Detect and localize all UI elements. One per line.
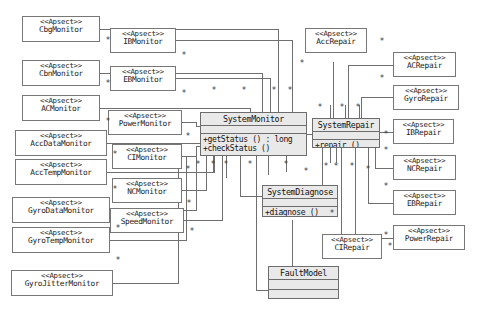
multiplicity-star: *: [384, 147, 388, 155]
aspect-box-cbgmonitor[interactable]: <<Apsect>> CbgMonitor: [22, 16, 100, 42]
operation-diagnose: +diagnose (): [265, 208, 337, 217]
class-operations-compartment: +getStatus () : long +checkStatus (): [201, 134, 306, 154]
aspect-box-accdatamonitor[interactable]: <<Apsect>> AccDataMonitor: [15, 130, 107, 156]
aspect-name: GyroJitterMonitor: [12, 280, 112, 288]
class-operations-compartment: +repair (): [313, 140, 379, 148]
aspect-box-gyrodatamonitor[interactable]: <<Apsect>> GyroDataMonitor: [12, 197, 110, 223]
class-box-faultmodel[interactable]: FaultModel: [268, 266, 339, 299]
aspect-box-ncmonitor[interactable]: <<Apsect>> NCMonitor: [112, 178, 182, 203]
class-attributes-compartment: [201, 126, 306, 134]
multiplicity-star: *: [384, 131, 388, 139]
aspect-box-acrepair[interactable]: <<Apsect>> ACRepair: [393, 52, 456, 77]
multiplicity-star: *: [106, 37, 110, 45]
aspect-name: CIMonitor: [113, 154, 181, 162]
aspect-box-ibmonitor[interactable]: <<Apsect>> IBMonitor: [110, 28, 176, 53]
multiplicity-star: *: [340, 104, 344, 112]
class-operations-compartment: +diagnose (): [263, 207, 337, 217]
aspect-name: EBRepair: [394, 200, 455, 208]
multiplicity-star: *: [272, 87, 276, 95]
class-name-systemmonitor: SystemMonitor: [201, 113, 306, 126]
aspect-name: CbgMonitor: [23, 26, 99, 34]
multiplicity-star: *: [388, 243, 392, 251]
class-attributes-compartment: [269, 280, 338, 290]
aspect-box-cbnmonitor[interactable]: <<Apsect>> CbnMonitor: [22, 60, 100, 86]
multiplicity-star: *: [324, 163, 328, 171]
aspect-box-speedmonitor[interactable]: <<Apsect>> SpeedMonitor: [110, 208, 184, 233]
aspect-name: PowerMonitor: [109, 120, 181, 128]
class-name-faultmodel: FaultModel: [269, 267, 338, 280]
multiplicity-star: *: [186, 166, 190, 174]
aspect-box-ibrepair[interactable]: <<Apsect>> IBRepair: [393, 119, 454, 144]
class-attributes-compartment: [263, 199, 337, 207]
aspect-name: AccDataMonitor: [16, 140, 106, 148]
multiplicity-star: *: [366, 166, 370, 174]
multiplicity-star: *: [106, 118, 110, 126]
multiplicity-star: *: [212, 87, 216, 95]
class-box-systemdiagnose[interactable]: SystemDiagnose +diagnose (): [262, 185, 338, 217]
aspect-name: SpeedMonitor: [111, 218, 183, 226]
multiplicity-star: *: [384, 232, 388, 240]
multiplicity-star: *: [116, 225, 120, 233]
multiplicity-star: *: [288, 87, 292, 95]
aspect-name: IBRepair: [394, 129, 453, 137]
multiplicity-star: *: [384, 183, 388, 191]
aspect-name: NCMonitor: [113, 188, 181, 196]
multiplicity-star: *: [196, 161, 200, 169]
aspect-name: ACRepair: [394, 62, 455, 70]
aspect-box-gyrojittermonitor[interactable]: <<Apsect>> GyroJitterMonitor: [11, 270, 113, 296]
class-name-systemdiagnose: SystemDiagnose: [263, 186, 337, 199]
multiplicity-star: *: [106, 80, 110, 88]
aspect-name: GyroTempMonitor: [13, 237, 109, 245]
aspect-box-powerrepair[interactable]: <<Apsect>> PowerRepair: [393, 225, 465, 250]
aspect-box-gyrotempmonitor[interactable]: <<Apsect>> GyroTempMonitor: [12, 227, 110, 253]
aspect-box-ebmonitor[interactable]: <<Apsect>> EBMonitor: [110, 66, 176, 91]
aspect-name: ACMonitor: [23, 105, 99, 113]
multiplicity-star: *: [334, 163, 338, 171]
multiplicity-star: *: [242, 87, 246, 95]
multiplicity-star: *: [182, 52, 186, 60]
operation-repair: +repair (): [315, 141, 379, 148]
aspect-name: GyroRepair: [394, 95, 458, 103]
class-operations-compartment: [269, 290, 338, 299]
aspect-box-cirepair[interactable]: <<Apsect>> CIRepair: [322, 234, 382, 259]
aspect-name: PowerRepair: [394, 235, 464, 243]
aspect-box-ebrepair[interactable]: <<Apsect>> EBRepair: [393, 190, 456, 215]
multiplicity-star: *: [300, 60, 304, 68]
aspect-name: IBMonitor: [111, 38, 175, 46]
multiplicity-star: *: [380, 75, 384, 83]
aspect-box-acctempmonitor[interactable]: <<Apsect>> AccTempMonitor: [15, 159, 107, 185]
class-box-systemmonitor[interactable]: SystemMonitor +getStatus () : long +chec…: [200, 112, 307, 156]
multiplicity-star: *: [190, 228, 194, 236]
multiplicity-star: *: [380, 38, 384, 46]
multiplicity-star: *: [350, 163, 354, 171]
aspect-name: CIRepair: [323, 244, 381, 252]
multiplicity-star: *: [186, 133, 190, 141]
multiplicity-star: *: [284, 161, 288, 169]
aspect-box-ncrepair[interactable]: <<Apsect>> NCRepair: [393, 155, 456, 180]
class-attributes-compartment: [313, 132, 379, 140]
aspect-box-acmonitor[interactable]: <<Apsect>> ACMonitor: [22, 95, 100, 121]
aspect-name: CbnMonitor: [23, 70, 99, 78]
multiplicity-star: *: [304, 168, 308, 176]
multiplicity-star: *: [187, 200, 191, 208]
operation-checkstatus: +checkStatus (): [203, 144, 306, 153]
multiplicity-star: *: [330, 210, 334, 218]
aspect-box-gyrorepair[interactable]: <<Apsect>> GyroRepair: [393, 85, 459, 110]
multiplicity-star: *: [113, 186, 117, 194]
aspect-box-cimonitor[interactable]: <<Apsect>> CIMonitor: [112, 144, 182, 169]
aspect-name: NCRepair: [394, 165, 455, 173]
multiplicity-star: *: [356, 104, 360, 112]
multiplicity-star: *: [116, 257, 120, 265]
uml-diagram-canvas: <<Apsect>> CbgMonitor <<Apsect>> CbnMoni…: [0, 0, 478, 320]
operation-getstatus: +getStatus () : long: [203, 135, 306, 144]
multiplicity-star: *: [318, 104, 322, 112]
aspect-box-accrepair[interactable]: <<Apsect>> AccRepair: [305, 28, 367, 53]
multiplicity-star: *: [182, 90, 186, 98]
multiplicity-star: *: [211, 161, 215, 169]
aspect-name: EBMonitor: [111, 76, 175, 84]
class-box-systemrepair[interactable]: SystemRepair +repair (): [312, 118, 380, 148]
aspect-box-powermonitor[interactable]: <<Apsect>> PowerMonitor: [108, 110, 182, 135]
aspect-name: AccTempMonitor: [16, 169, 106, 177]
multiplicity-star: *: [224, 161, 228, 169]
multiplicity-star: *: [113, 151, 117, 159]
